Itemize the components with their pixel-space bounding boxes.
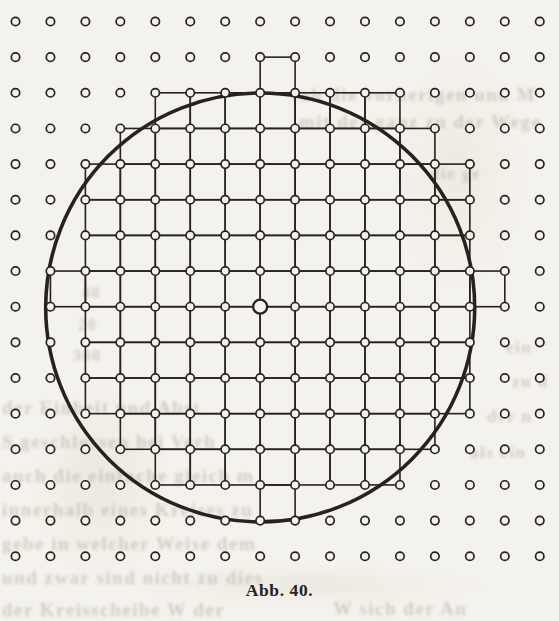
- unit-square: [190, 271, 225, 307]
- lattice-dot: [396, 231, 404, 239]
- unit-square: [225, 378, 260, 414]
- lattice-dot: [221, 409, 229, 417]
- unit-square: [330, 414, 365, 450]
- lattice-dot: [221, 445, 229, 453]
- lattice-dot: [291, 516, 299, 524]
- lattice-dot: [326, 303, 334, 311]
- lattice-dot: [431, 124, 439, 132]
- lattice-dot: [46, 124, 54, 132]
- lattice-dot: [501, 338, 509, 346]
- lattice-dot: [466, 160, 474, 168]
- lattice-dot: [361, 231, 369, 239]
- unit-square: [400, 164, 435, 200]
- lattice-dot: [186, 445, 194, 453]
- lattice-dot: [431, 196, 439, 204]
- lattice-dot: [256, 196, 264, 204]
- lattice-dot: [81, 445, 89, 453]
- unit-square: [225, 164, 260, 200]
- unit-square: [295, 414, 330, 450]
- lattice-dot: [116, 516, 124, 524]
- lattice-dot: [361, 124, 369, 132]
- lattice-dot: [151, 481, 159, 489]
- lattice-dot: [466, 124, 474, 132]
- unit-square: [190, 235, 225, 271]
- lattice-dot: [46, 374, 54, 382]
- lattice-dot: [186, 374, 194, 382]
- unit-square: [260, 414, 295, 450]
- lattice-dot: [326, 445, 334, 453]
- lattice-dot: [291, 552, 299, 560]
- lattice-dot: [116, 481, 124, 489]
- lattice-dots: [11, 17, 544, 560]
- unit-square: [330, 235, 365, 271]
- lattice-dot: [466, 303, 474, 311]
- lattice-dot: [326, 231, 334, 239]
- lattice-dot: [116, 409, 124, 417]
- lattice-dot: [326, 409, 334, 417]
- unit-square: [190, 378, 225, 414]
- lattice-dot: [536, 267, 544, 275]
- lattice-dot: [326, 516, 334, 524]
- unit-square: [155, 307, 190, 343]
- lattice-dot: [81, 409, 89, 417]
- lattice-dot: [291, 231, 299, 239]
- unit-square: [155, 235, 190, 271]
- unit-square: [260, 57, 295, 93]
- lattice-dot: [466, 17, 474, 25]
- unit-square: [295, 164, 330, 200]
- unit-square: [50, 271, 85, 307]
- lattice-dot: [326, 124, 334, 132]
- lattice-dot: [81, 53, 89, 61]
- unit-square: [155, 449, 190, 485]
- lattice-dot: [186, 53, 194, 61]
- lattice-dot: [501, 17, 509, 25]
- lattice-dot: [256, 374, 264, 382]
- lattice-dot: [46, 231, 54, 239]
- unit-square: [260, 485, 295, 521]
- unit-square: [155, 271, 190, 307]
- unit-square: [435, 271, 470, 307]
- lattice-dot: [81, 374, 89, 382]
- lattice-dot: [361, 338, 369, 346]
- unit-square: [400, 235, 435, 271]
- lattice-dot: [536, 374, 544, 382]
- lattice-dot: [256, 445, 264, 453]
- unit-square: [190, 342, 225, 378]
- lattice-dot: [361, 445, 369, 453]
- lattice-dot: [151, 516, 159, 524]
- lattice-dot: [466, 481, 474, 489]
- unit-square: [295, 449, 330, 485]
- lattice-dot: [536, 409, 544, 417]
- unit-square: [295, 200, 330, 236]
- lattice-dot: [431, 552, 439, 560]
- lattice-dot: [81, 196, 89, 204]
- lattice-dot: [186, 516, 194, 524]
- unit-square: [85, 342, 120, 378]
- unit-square: [155, 164, 190, 200]
- lattice-dot: [431, 445, 439, 453]
- lattice-dot: [536, 124, 544, 132]
- lattice-dot: [256, 481, 264, 489]
- lattice-dot: [256, 338, 264, 346]
- lattice-dot: [256, 516, 264, 524]
- lattice-dot: [11, 231, 19, 239]
- lattice-dot: [536, 303, 544, 311]
- unit-square: [330, 128, 365, 164]
- lattice-dot: [221, 53, 229, 61]
- lattice-dot: [186, 231, 194, 239]
- lattice-dot: [151, 303, 159, 311]
- lattice-dot: [501, 303, 509, 311]
- lattice-dot: [501, 53, 509, 61]
- lattice-dot: [256, 124, 264, 132]
- lattice-dot: [116, 89, 124, 97]
- unit-square: [85, 235, 120, 271]
- lattice-dot: [291, 445, 299, 453]
- lattice-dot: [221, 196, 229, 204]
- lattice-dot: [81, 552, 89, 560]
- unit-square: [120, 342, 155, 378]
- lattice-dot: [256, 160, 264, 168]
- unit-square: [400, 307, 435, 343]
- lattice-dot: [501, 516, 509, 524]
- unit-square: [190, 414, 225, 450]
- unit-square: [190, 200, 225, 236]
